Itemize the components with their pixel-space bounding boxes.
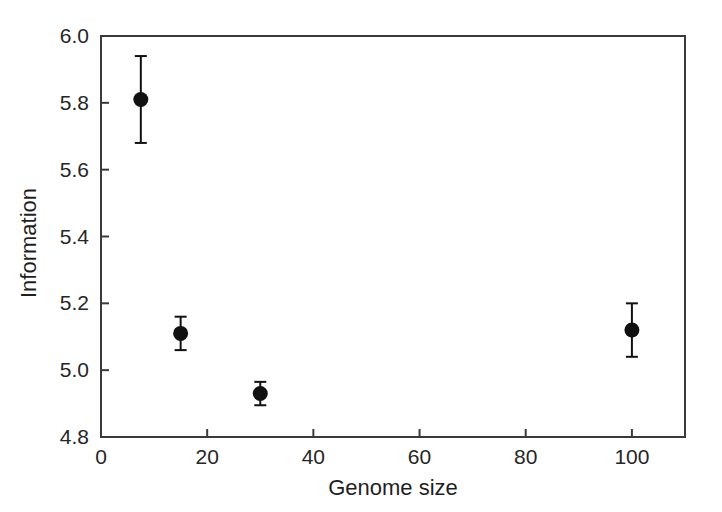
marker-filled-circle — [253, 386, 268, 401]
y-axis-tick-labels: 4.85.05.25.45.65.86.0 — [60, 24, 90, 448]
x-tick-label-4: 80 — [514, 445, 537, 468]
y-tick-label-5: 5.8 — [60, 91, 89, 114]
scatter-plot-svg: 4.85.05.25.45.65.86.0 020406080100 Genom… — [0, 0, 722, 512]
y-tick-label-1: 5.0 — [60, 358, 89, 381]
data-points-layer — [133, 56, 639, 405]
x-tick-label-1: 20 — [196, 445, 219, 468]
y-tick-label-0: 4.8 — [60, 425, 89, 448]
data-point — [173, 317, 188, 350]
chart-figure: 4.85.05.25.45.65.86.0 020406080100 Genom… — [0, 0, 722, 512]
data-point — [253, 382, 268, 405]
marker-filled-circle — [133, 92, 148, 107]
y-tick-label-6: 6.0 — [60, 24, 89, 47]
data-point — [133, 56, 148, 143]
x-tick-label-5: 100 — [614, 445, 649, 468]
x-axis-title: Genome size — [328, 475, 458, 500]
x-tick-label-3: 60 — [408, 445, 431, 468]
y-axis-ticks — [101, 36, 109, 437]
data-point — [624, 303, 639, 356]
marker-filled-circle — [173, 326, 188, 341]
marker-filled-circle — [624, 323, 639, 338]
plot-frame — [100, 36, 686, 437]
x-tick-label-2: 40 — [302, 445, 325, 468]
y-tick-label-3: 5.4 — [60, 225, 90, 248]
x-axis-tick-labels: 020406080100 — [95, 445, 649, 468]
x-axis-ticks — [101, 429, 632, 437]
x-tick-label-0: 0 — [95, 445, 107, 468]
y-tick-label-2: 5.2 — [60, 291, 89, 314]
y-tick-label-4: 5.6 — [60, 158, 89, 181]
y-axis-title: Information — [16, 188, 41, 298]
